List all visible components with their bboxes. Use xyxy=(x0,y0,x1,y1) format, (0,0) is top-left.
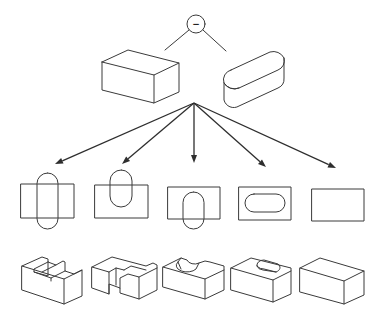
plan-view-3 xyxy=(168,187,220,229)
minus-icon: − xyxy=(192,19,200,29)
edge-0 xyxy=(92,257,157,299)
slot-top-face xyxy=(223,52,284,89)
slot-side-face xyxy=(224,58,284,108)
result-shape-2 xyxy=(92,257,157,299)
plan-slot-capsule xyxy=(183,192,204,229)
plan-view-row xyxy=(21,170,364,229)
box-face-0 xyxy=(102,50,179,75)
connector-line-0 xyxy=(165,30,189,50)
boolean-subtraction-diagram: − xyxy=(0,0,382,320)
plan-rect xyxy=(21,184,74,218)
arrow-4 xyxy=(194,103,266,167)
arrow-5 xyxy=(194,103,336,168)
edge-0 xyxy=(231,258,291,302)
input-box-shape xyxy=(102,50,179,103)
edge-0 xyxy=(163,258,224,299)
arrow-1 xyxy=(55,103,194,164)
plan-rect xyxy=(312,189,364,221)
edge-4 xyxy=(42,265,56,272)
subtract-operator: − xyxy=(187,15,205,33)
result-shape-3 xyxy=(163,258,224,299)
result-shape-4 xyxy=(231,258,291,302)
edge-1 xyxy=(163,267,224,279)
plan-view-5 xyxy=(312,189,364,221)
plan-rect xyxy=(95,185,148,218)
edge-6 xyxy=(124,266,146,270)
result-shape-1 xyxy=(22,257,82,304)
plan-slot-capsule xyxy=(245,194,285,212)
arrowhead-icon xyxy=(327,162,336,168)
plan-view-2 xyxy=(95,170,148,218)
connector-line-1 xyxy=(203,30,226,51)
slot-edge xyxy=(224,83,239,89)
diagram-canvas: − xyxy=(0,0,382,320)
arrow-shaft xyxy=(62,103,194,161)
plan-slot-capsule xyxy=(37,173,58,229)
edge-1 xyxy=(92,267,109,294)
arrow-shaft xyxy=(194,103,260,162)
edge-4 xyxy=(120,274,139,299)
edge-1 xyxy=(300,268,364,281)
result-3d-row xyxy=(22,257,364,304)
input-slot-shape xyxy=(223,52,284,108)
edge-0 xyxy=(22,257,82,304)
result-shape-5 xyxy=(300,258,364,304)
plan-rect xyxy=(239,187,291,220)
plan-view-4 xyxy=(239,187,291,220)
result-arrows xyxy=(55,103,336,168)
arrowhead-icon xyxy=(191,155,197,163)
plan-view-1 xyxy=(21,173,74,229)
edge-4 xyxy=(178,262,181,269)
arrowhead-icon xyxy=(55,158,64,164)
plan-slot-capsule xyxy=(110,170,132,207)
arrow-shaft xyxy=(194,103,329,165)
arrow-2 xyxy=(122,103,194,164)
arrow-3 xyxy=(191,103,197,163)
arrow-shaft xyxy=(128,103,194,159)
edge-0 xyxy=(300,258,364,304)
